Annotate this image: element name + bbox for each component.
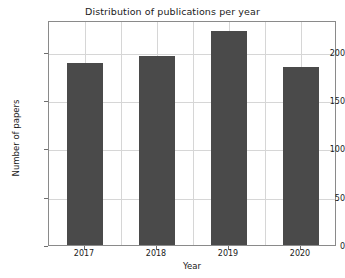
x-tick-label-2017: 2017 (54, 249, 114, 258)
bar-2017 (67, 63, 103, 246)
x-tick-label-2020: 2020 (270, 249, 330, 258)
y-tick-label: 50 (305, 193, 345, 202)
y-axis-label: Number of papers (11, 78, 21, 198)
x-axis-label: Year (48, 261, 336, 271)
y-axis: Number of papers (0, 0, 48, 278)
bar-2019 (211, 31, 247, 245)
y-tick-mark (44, 53, 48, 54)
y-tick-label: 100 (305, 145, 345, 154)
bar-series (49, 22, 335, 245)
y-tick-mark (44, 198, 48, 199)
x-tick-label-2019: 2019 (198, 249, 258, 258)
bar-2018 (139, 56, 175, 245)
chart-title: Distribution of publications per year (0, 6, 345, 17)
y-tick-mark (44, 246, 48, 247)
y-tick-label: 150 (305, 97, 345, 106)
y-tick-label: 200 (305, 48, 345, 57)
y-tick-mark (44, 101, 48, 102)
y-tick-mark (44, 149, 48, 150)
bar-chart-figure: Distribution of publications per year Nu… (0, 0, 345, 278)
plot-area (48, 21, 336, 246)
bar-2020 (283, 67, 319, 245)
x-tick-label-2018: 2018 (126, 249, 186, 258)
